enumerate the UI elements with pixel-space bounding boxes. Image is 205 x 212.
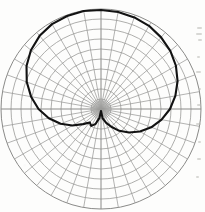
bleed-mark	[198, 141, 201, 143]
bleed-mark	[196, 33, 202, 35]
bleed-mark	[198, 88, 201, 90]
radiation-pattern-curve	[27, 10, 178, 132]
bleed-mark	[196, 176, 199, 178]
bleed-mark	[197, 27, 202, 29]
bleed-mark	[196, 123, 201, 125]
bleed-mark	[198, 39, 202, 41]
bleed-mark	[196, 71, 201, 73]
polar-chart-canvas	[0, 0, 205, 212]
bleed-mark	[197, 104, 201, 106]
polar-plot-figure	[0, 0, 205, 212]
bleed-mark	[197, 56, 200, 58]
bleed-mark	[197, 158, 201, 160]
